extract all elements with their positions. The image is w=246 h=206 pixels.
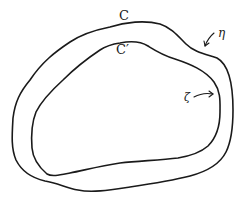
label-eta: η (218, 27, 225, 39)
zeta-arrow-icon (194, 91, 213, 97)
label-zeta: ζ (184, 92, 190, 103)
contour-diagram (0, 0, 246, 206)
eta-arrow-icon (204, 33, 214, 46)
inner-curve-c-prime (32, 42, 220, 176)
label-inner-curve: C′ (116, 43, 129, 56)
label-outer-curve: C (119, 9, 129, 22)
